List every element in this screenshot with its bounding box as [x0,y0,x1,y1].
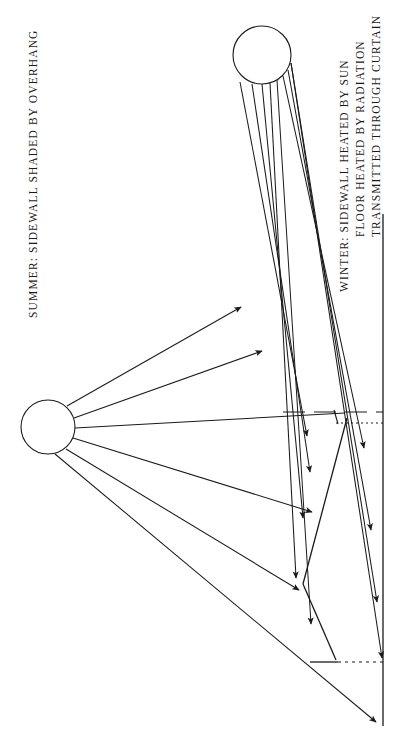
winter-caption-block: WINTER: SIDEWALL HEATED BY SUN FLOOR HEA… [336,15,384,292]
diagram-canvas: SUMMER: SIDEWALL SHADED BY OVERHANG WINT… [0,0,399,732]
winter-ray-3 [262,84,303,518]
winter-caption-line-3: TRANSMITTED THROUGH CURTAIN [368,15,384,292]
winter-sun-group [233,26,291,84]
summer-sun-group [21,400,75,454]
summer-sun-circle [21,400,75,454]
winter-caption-line-2: FLOOR HEATED BY RADIATION [352,15,368,292]
summer-ray-dn-3 [55,454,376,722]
winter-caption-line-1: WINTER: SIDEWALL HEATED BY SUN [336,15,352,292]
summer-ray-up-1 [67,307,241,406]
curtain-glazing-line [303,584,336,660]
winter-ray-4 [270,83,296,578]
roof-overhang-line [303,418,347,584]
summer-ray-bundle [55,307,376,722]
summer-ray-dn-2 [66,449,299,590]
summer-ray-up-2 [74,351,262,418]
winter-sun-circle [233,26,291,84]
summer-caption: SUMMER: SIDEWALL SHADED BY OVERHANG [27,29,39,318]
